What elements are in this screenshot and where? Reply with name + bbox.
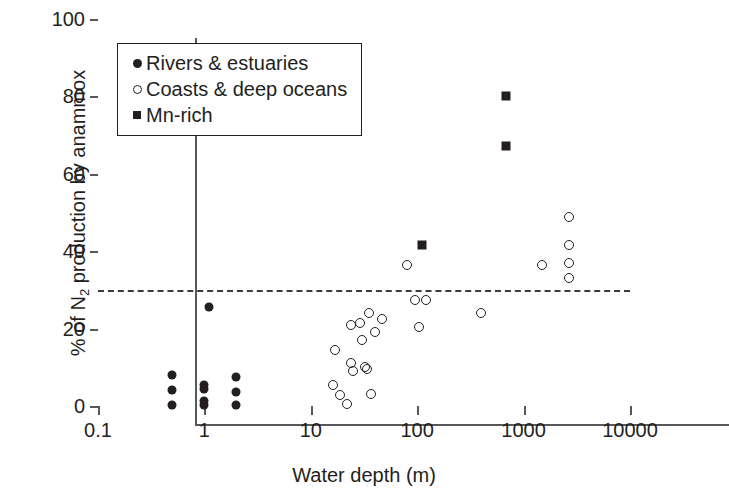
data-point-open-circle [366, 389, 376, 399]
data-point-open-circle [370, 327, 380, 337]
y-axis-label-suffix: production by anammox [67, 69, 89, 288]
x-axis-label: Water depth (m) [98, 464, 630, 487]
filled-circle-icon [128, 59, 146, 68]
y-tick-100: 100 [90, 19, 98, 21]
plot-area: 020406080100 0.1110100100010000 % of N2 … [98, 19, 630, 406]
x-tick-100: 100 [417, 406, 419, 415]
data-point-filled-circle [168, 371, 177, 380]
data-point-filled-circle [232, 388, 241, 397]
data-point-filled-circle [232, 400, 241, 409]
threshold-dashed-line [98, 290, 630, 292]
data-point-open-circle [357, 335, 367, 345]
data-point-open-circle [348, 366, 358, 376]
x-tick-label-0.1: 0.1 [84, 420, 112, 440]
data-point-open-circle [476, 308, 486, 318]
x-tick-label-10: 10 [300, 420, 322, 440]
open-circle-glyph [133, 85, 142, 94]
x-tick-label-10000: 10000 [602, 420, 658, 440]
data-point-open-circle [414, 322, 424, 332]
x-tick-label-1: 1 [199, 420, 210, 440]
data-point-open-circle [355, 318, 365, 328]
data-point-open-circle [362, 364, 372, 374]
data-point-open-circle [377, 314, 387, 324]
y-tick-40: 40 [90, 251, 98, 253]
x-tick-10000: 10000 [630, 406, 632, 415]
x-tick-label-1000: 1000 [501, 420, 546, 440]
data-point-filled-circle [168, 400, 177, 409]
x-tick-label-100: 100 [401, 420, 434, 440]
data-point-open-circle [564, 258, 574, 268]
legend-item-0: Rivers & estuaries [128, 50, 347, 76]
legend-item-1: Coasts & deep oceans [128, 76, 347, 102]
data-point-open-circle [330, 345, 340, 355]
data-point-open-circle [564, 273, 574, 283]
y-tick-0: 0 [90, 406, 98, 408]
y-axis-label-subscript: 2 [77, 288, 92, 295]
x-tick-10: 10 [311, 406, 313, 415]
legend-label: Coasts & deep oceans [146, 79, 347, 99]
data-point-filled-circle [204, 303, 213, 312]
y-tick-label-0: 0 [74, 396, 85, 416]
data-point-filled-circle [168, 385, 177, 394]
data-point-open-circle [421, 295, 431, 305]
data-point-open-circle [564, 212, 574, 222]
chart-legend: Rivers & estuariesCoasts & deep oceansMn… [117, 43, 362, 136]
x-tick-1000: 1000 [524, 406, 526, 415]
data-point-filled-circle [200, 381, 209, 390]
data-point-open-circle [564, 240, 574, 250]
data-point-filled-square [501, 92, 510, 101]
y-tick-20: 20 [90, 329, 98, 331]
data-point-open-circle [537, 260, 547, 270]
data-point-filled-circle [232, 372, 241, 381]
data-point-filled-circle [200, 396, 209, 405]
legend-item-2: Mn-rich [128, 102, 347, 128]
y-tick-label-100: 100 [52, 9, 85, 29]
open-circle-icon [128, 85, 146, 94]
legend-label: Mn-rich [146, 105, 213, 125]
filled-circle-glyph [133, 59, 142, 68]
data-point-filled-square [501, 141, 510, 150]
filled-square-glyph [133, 111, 141, 119]
y-tick-60: 60 [90, 174, 98, 176]
data-point-open-circle [410, 295, 420, 305]
data-point-open-circle [402, 260, 412, 270]
legend-label: Rivers & estuaries [146, 53, 308, 73]
y-axis-label: % of N2 production by anammox [67, 69, 90, 355]
data-point-open-circle [328, 380, 338, 390]
data-point-open-circle [364, 308, 374, 318]
data-point-filled-square [417, 241, 426, 250]
x-tick-0.1: 0.1 [98, 406, 100, 415]
filled-square-icon [128, 111, 146, 119]
y-tick-80: 80 [90, 96, 98, 98]
data-point-open-circle [342, 399, 352, 409]
y-axis-label-prefix: % of N [67, 296, 89, 356]
